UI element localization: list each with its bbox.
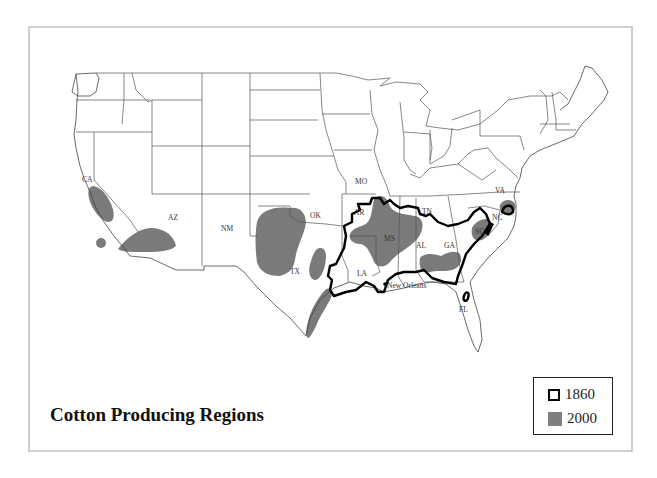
label-va: VA (495, 186, 505, 195)
region-1860-fl (464, 292, 469, 300)
legend-label-1860: 1860 (565, 386, 595, 403)
legend-label-2000: 2000 (567, 410, 597, 427)
label-mo: MO (355, 177, 368, 186)
legend-swatch-fill-icon (548, 412, 562, 426)
label-new-orleans: New Orleans (387, 281, 426, 290)
state-borders (72, 66, 608, 352)
label-ar: AR (354, 208, 364, 217)
region-2000-al-ga (420, 252, 462, 273)
legend-item-1860: 1860 (548, 386, 595, 403)
region-2000-ca-imperial (96, 238, 106, 248)
regions-2000 (83, 182, 515, 338)
label-nm: NM (221, 224, 233, 233)
label-fl: FL (459, 305, 468, 314)
region-2000-tx-plains (256, 208, 307, 276)
region-2000-tx-coast (306, 288, 332, 338)
region-2000-az (118, 228, 176, 252)
label-ca: CA (82, 175, 93, 184)
label-ok: OK (310, 211, 321, 220)
label-ga: GA (444, 241, 455, 250)
legend-item-2000: 2000 (548, 410, 597, 427)
label-ms: MS (384, 234, 395, 243)
legend-swatch-outline-icon (548, 389, 560, 401)
label-tn: TN (422, 207, 433, 216)
label-la: LA (357, 269, 368, 278)
label-tx: TX (290, 267, 301, 276)
label-az: AZ (168, 213, 178, 222)
label-sc: SC (475, 227, 484, 236)
label-al: AL (416, 241, 426, 250)
map-title: Cotton Producing Regions (50, 404, 264, 426)
legend: 1860 2000 (533, 377, 613, 435)
region-2000-tx-blackland (309, 248, 326, 280)
label-nc: NC (492, 213, 502, 222)
